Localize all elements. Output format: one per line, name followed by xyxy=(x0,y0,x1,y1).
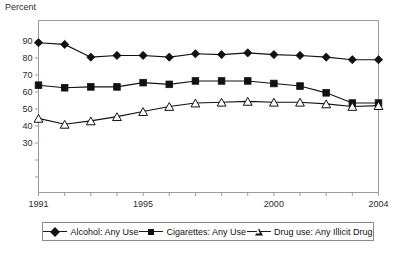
data-point xyxy=(374,56,382,64)
data-point xyxy=(270,51,278,59)
data-point xyxy=(166,81,173,88)
data-point xyxy=(61,84,68,91)
svg-text:2000: 2000 xyxy=(264,199,284,209)
svg-text:1991: 1991 xyxy=(28,199,48,209)
data-point xyxy=(139,108,148,116)
svg-text:30: 30 xyxy=(22,138,32,148)
data-point xyxy=(296,51,304,59)
legend-item-3[interactable]: Drug use: Any Illicit Drug xyxy=(247,226,373,237)
legend-item-1[interactable]: Alcohol: Any Use xyxy=(43,226,138,237)
data-point xyxy=(87,53,95,61)
legend-item-label: Drug use: Any Illicit Drug xyxy=(274,227,373,237)
legend-marker xyxy=(148,229,154,235)
data-point xyxy=(297,83,304,90)
chart-legend: Alcohol: Any UseCigarettes: Any UseDrug … xyxy=(42,222,374,241)
data-point xyxy=(244,49,252,57)
legend-item-2[interactable]: Cigarettes: Any Use xyxy=(139,226,246,237)
data-point xyxy=(322,53,330,61)
svg-text:80: 80 xyxy=(22,53,32,63)
data-point xyxy=(61,40,69,48)
series-3 xyxy=(34,97,383,128)
x-axis-ticks: 1991199520002004 xyxy=(28,193,388,209)
svg-text:2004: 2004 xyxy=(368,199,388,209)
legend-marker xyxy=(255,228,263,235)
open-triangle-icon xyxy=(247,226,271,237)
data-point xyxy=(34,39,42,47)
chart-figure: Percent 30405060708090 1991199520002004 … xyxy=(0,0,394,253)
legend-item-label: Cigarettes: Any Use xyxy=(166,227,246,237)
data-point xyxy=(271,80,278,87)
svg-text:90: 90 xyxy=(22,36,32,46)
svg-text:40: 40 xyxy=(22,121,32,131)
data-point xyxy=(165,53,173,61)
legend-item-label: Alcohol: Any Use xyxy=(70,227,138,237)
data-point xyxy=(218,78,225,85)
filled-diamond-icon xyxy=(43,226,67,237)
series-2 xyxy=(35,78,382,107)
data-point xyxy=(217,51,225,59)
filled-square-icon xyxy=(139,226,163,237)
svg-text:60: 60 xyxy=(22,87,32,97)
series-1 xyxy=(34,39,382,64)
data-point xyxy=(34,114,43,122)
plot-area: 30405060708090 1991199520002004 xyxy=(0,0,394,253)
data-point xyxy=(35,82,42,89)
data-point xyxy=(114,84,121,91)
data-point xyxy=(140,79,147,86)
svg-text:70: 70 xyxy=(22,70,32,80)
data-series-group xyxy=(34,39,383,129)
data-point xyxy=(244,78,251,85)
svg-text:1995: 1995 xyxy=(133,199,153,209)
data-point xyxy=(113,51,121,59)
data-point xyxy=(139,51,147,59)
data-point xyxy=(192,78,199,85)
data-point xyxy=(88,84,95,91)
data-point xyxy=(348,56,356,64)
y-axis-ticks: 30405060708090 xyxy=(22,36,38,177)
data-point xyxy=(191,50,199,58)
data-point xyxy=(323,90,330,97)
legend-marker xyxy=(51,227,61,237)
svg-text:50: 50 xyxy=(22,104,32,114)
